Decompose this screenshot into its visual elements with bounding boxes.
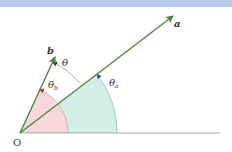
vector-b-label: b [47,45,54,56]
vector-angle-diagram: a b θ θb θa O [0,0,232,152]
angle-b-wedge [20,89,68,133]
theta-a-label: θa [109,77,119,89]
vector-a-label: a [174,18,180,29]
theta-label: θ [62,57,68,68]
origin-label: O [13,137,21,148]
theta-b-label: θb [48,79,58,91]
